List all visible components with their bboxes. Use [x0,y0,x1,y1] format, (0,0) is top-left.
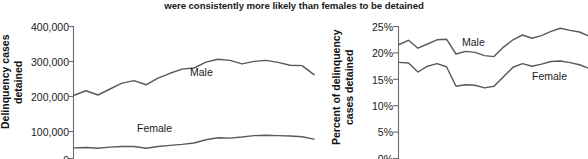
right-chart-y-axis-label: Percent of delinquency cases detained [330,15,355,159]
chart-panel-counts: Delinquency cases detained 400,000 300,0… [0,0,330,159]
left-chart-label-male: Male [190,67,213,78]
left-chart-label-female: Female [137,123,172,134]
left-chart-series-female [74,135,314,148]
left-chart-plot [0,0,330,159]
right-chart-label-female: Female [532,71,567,82]
right-chart-label-male: Male [462,37,485,48]
figure-container: were consistently more likely than femal… [0,0,588,159]
right-chart-series-male [399,28,588,56]
chart-panel-percent: 25% 20% 15% 10% 5% 0% Percent of delinqu… [330,0,588,159]
